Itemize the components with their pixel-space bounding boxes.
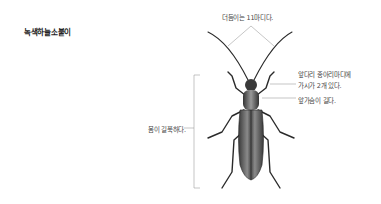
beetle-pronotum <box>243 90 259 110</box>
body-bracket <box>184 75 200 188</box>
antennae <box>208 32 292 80</box>
beetle-illustration <box>0 0 381 204</box>
antenna-leader-lines <box>228 26 274 46</box>
beetle-head <box>245 79 257 91</box>
